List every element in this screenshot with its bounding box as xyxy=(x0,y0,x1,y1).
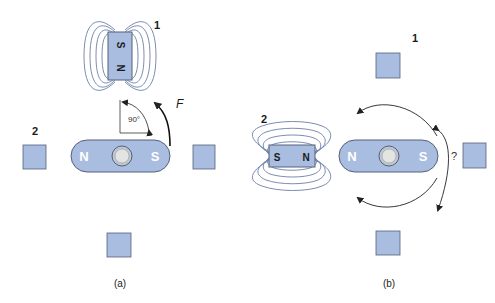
pole-piece-bottom-b xyxy=(376,231,400,255)
pole-piece-bottom-a xyxy=(107,233,131,257)
label-2-b: 2 xyxy=(261,113,267,125)
question-mark: ? xyxy=(451,150,457,162)
rotor-a-pole-n: N xyxy=(79,149,88,164)
rotor-magnet-a: N S xyxy=(71,140,170,172)
force-arrow: F xyxy=(155,97,184,146)
pole-piece-top-b xyxy=(376,53,400,78)
rotor-b-pole-s: S xyxy=(419,149,428,164)
caption-a: (a) xyxy=(114,278,126,289)
bar-magnet-1: S N xyxy=(108,32,132,80)
label-1-a: 1 xyxy=(154,19,160,31)
force-label: F xyxy=(176,97,184,111)
magnet-1-pole-n: N xyxy=(115,64,126,71)
caption-b: (b) xyxy=(383,278,395,289)
magnet-2-pole-s: S xyxy=(274,152,281,163)
pole-piece-right-b xyxy=(463,143,486,168)
label-2-a: 2 xyxy=(32,125,38,137)
angle-90-indicator: 90° xyxy=(120,100,150,133)
angle-label: 90° xyxy=(128,115,140,124)
motor-principle-diagram: S N 1 90° F 2 N S (a) xyxy=(0,0,495,303)
magnet-2-pole-n: N xyxy=(302,152,309,163)
pole-piece-left-a xyxy=(23,145,46,169)
pole-piece-right-a xyxy=(193,145,215,169)
magnet-1-pole-s: S xyxy=(115,42,126,49)
rotor-a-pole-s: S xyxy=(151,149,160,164)
panel-b: 1 2 S N N S xyxy=(252,32,486,289)
rotor-b-pole-n: N xyxy=(347,149,356,164)
label-1-b: 1 xyxy=(412,32,418,44)
rotor-magnet-b: N S xyxy=(339,140,438,172)
panel-a: S N 1 90° F 2 N S (a) xyxy=(23,19,215,289)
bar-magnet-2: S N xyxy=(269,145,315,167)
